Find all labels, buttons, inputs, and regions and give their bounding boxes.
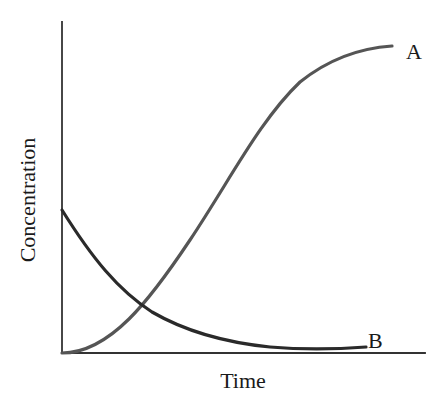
- series-label-a: A: [406, 41, 422, 63]
- concentration-vs-time-chart: · · · · · · · · · · · · · · · · Concentr…: [0, 0, 445, 401]
- series-curve-a: [62, 46, 392, 353]
- series-label-b: B: [368, 330, 383, 352]
- series-curve-b: [62, 210, 366, 349]
- y-axis-label: Concentration: [17, 138, 39, 263]
- x-axis-label: Time: [220, 370, 266, 392]
